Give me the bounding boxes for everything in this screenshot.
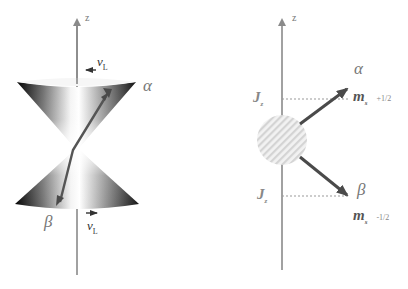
m-subscript: s bbox=[365, 99, 368, 107]
jz-label-lower: Jz bbox=[257, 186, 267, 205]
right-z-label: z bbox=[292, 12, 296, 23]
upper-cone-alpha bbox=[17, 78, 136, 150]
ms-value-upper: +1/2 bbox=[376, 94, 391, 103]
m-subscript: s bbox=[365, 218, 368, 226]
spin-up-vector bbox=[300, 89, 347, 124]
spin-down-vector bbox=[300, 157, 347, 195]
larmor-frequency-top: νL bbox=[97, 54, 108, 72]
j-subscript: z bbox=[261, 100, 264, 108]
ms-value-lower: -1/2 bbox=[376, 213, 389, 222]
beta-label-right: β bbox=[357, 180, 365, 200]
alpha-label-right: α bbox=[354, 59, 363, 79]
left-precession-diagram bbox=[15, 20, 139, 275]
left-z-label: z bbox=[85, 12, 89, 23]
m-symbol: m bbox=[353, 207, 365, 223]
j-symbol: J bbox=[253, 89, 261, 105]
m-symbol: m bbox=[353, 88, 365, 104]
diagram-canvas bbox=[0, 0, 408, 289]
nu-subscript: L bbox=[93, 227, 98, 236]
beta-label-left: β bbox=[44, 212, 52, 232]
alpha-label-left: α bbox=[143, 76, 152, 96]
lower-cone-beta bbox=[15, 148, 139, 209]
right-spin-state-diagram bbox=[257, 20, 348, 270]
ms-label-upper: ms +1/2 bbox=[353, 87, 391, 107]
larmor-frequency-bottom: νL bbox=[87, 218, 98, 236]
j-subscript: z bbox=[265, 197, 268, 205]
j-symbol: J bbox=[257, 186, 265, 202]
nucleus-circle bbox=[257, 115, 307, 165]
jz-label-upper: Jz bbox=[253, 89, 263, 108]
ms-label-lower: ms -1/2 bbox=[353, 206, 389, 226]
nu-subscript: L bbox=[103, 63, 108, 72]
